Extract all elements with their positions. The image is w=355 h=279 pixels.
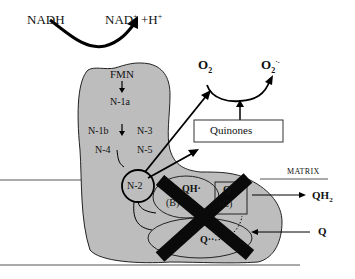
arrowhead-icon [299, 192, 306, 198]
arrowhead-icon [265, 75, 273, 85]
site-b-label: (B) [166, 198, 179, 208]
site-c-label: (C) [219, 199, 232, 209]
site-b-qh-label: QH· [182, 184, 201, 194]
superoxide-formation-arc [207, 80, 270, 101]
n1a-label: N-1a [110, 97, 130, 107]
n3-label: N-3 [137, 126, 153, 136]
qh2-label: QH2 [312, 190, 333, 204]
quinones-label: Quinones [210, 125, 252, 136]
n4-label: N-4 [95, 145, 111, 155]
n1b-label: N-1b [88, 126, 109, 136]
nad-label: NAD+ +H+ [105, 13, 162, 26]
site-c-q-label: Q [223, 185, 231, 195]
superoxide-label: O2·- [261, 58, 280, 75]
site-a-q-label: Q·· [200, 235, 214, 245]
o2-label: O2 [198, 58, 212, 75]
q-label: Q [318, 226, 327, 237]
nadh-label: NADH [27, 13, 65, 26]
matrix-label: MATRIX [287, 168, 319, 176]
n5-label: N-5 [137, 145, 153, 155]
diagram-canvas [0, 0, 355, 279]
fmn-label: FMN [110, 69, 134, 80]
n2-label: N-2 [127, 181, 143, 191]
